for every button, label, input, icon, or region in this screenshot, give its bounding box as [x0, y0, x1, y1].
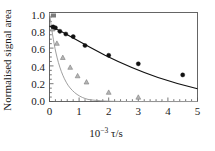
x-axis-title-mantissa: 10: [89, 127, 101, 139]
data-marker-circle: [71, 35, 75, 39]
x-axis-title-unit: τ/s: [111, 127, 123, 139]
data-marker-triangle: [84, 80, 89, 84]
data-marker-triangle: [75, 73, 80, 77]
data-marker-circle: [83, 43, 87, 47]
chart-canvas: Normalised signal area 1.0 0.8 0.6 0.4 0…: [0, 0, 215, 151]
series-slow-decay: [50, 25, 198, 89]
x-tick-label: 5: [195, 105, 201, 117]
svg-text:10−3 τ/s: 10−3 τ/s: [89, 126, 123, 139]
series-fast-decay: [50, 13, 198, 102]
corner-artifact: [51, 14, 56, 18]
data-marker-triangle: [68, 65, 73, 69]
x-axis-title: 10−3 τ/s: [89, 126, 123, 139]
data-marker-circle: [181, 73, 185, 77]
x-tick-labels: 0 1 2 3 4 5: [47, 105, 201, 117]
x-axis-title-exponent: −3: [100, 126, 108, 135]
y-tick-label: 0.6: [31, 43, 45, 55]
plot-frame: [50, 13, 198, 102]
data-marker-triangle: [106, 90, 111, 94]
y-tick-label: 0.0: [31, 95, 45, 107]
data-marker-circle: [64, 32, 68, 36]
figure-container: Normalised signal area 1.0 0.8 0.6 0.4 0…: [0, 0, 215, 151]
y-tick-label: 0.2: [31, 78, 45, 90]
data-marker-circle: [107, 53, 111, 57]
x-tick-label: 2: [106, 105, 112, 117]
x-axis-ticks: [50, 98, 198, 102]
x-tick-label: 0: [47, 105, 53, 117]
y-tick-label: 1.0: [31, 9, 45, 21]
data-marker-circle: [53, 26, 57, 30]
x-tick-label: 4: [165, 105, 171, 117]
y-axis-title-text: Normalised signal area: [1, 9, 13, 111]
data-marker-circle: [58, 29, 62, 33]
plot-frame-rect: [50, 13, 198, 102]
data-marker-circle: [136, 62, 140, 66]
x-tick-label: 1: [76, 105, 82, 117]
y-tick-labels: 1.0 0.8 0.6 0.4 0.2 0.0: [31, 9, 45, 107]
data-marker-triangle: [136, 95, 141, 99]
y-tick-label: 0.4: [31, 61, 45, 73]
data-marker-triangle: [55, 41, 60, 45]
y-tick-label: 0.8: [31, 26, 45, 38]
x-tick-label: 3: [136, 105, 142, 117]
fast-decay-fit-line: [50, 13, 198, 102]
data-marker-triangle: [60, 55, 65, 59]
y-axis-title: Normalised signal area: [1, 9, 13, 111]
